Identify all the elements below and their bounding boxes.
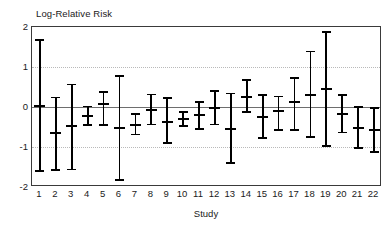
point-estimate-marker bbox=[98, 103, 109, 105]
point-estimate-marker bbox=[353, 127, 364, 129]
x-tick-label-2: 2 bbox=[52, 188, 57, 199]
upper-ci-cap bbox=[322, 31, 331, 33]
upper-ci-cap bbox=[370, 107, 379, 109]
lower-ci-cap bbox=[99, 124, 108, 126]
lower-ci-cap bbox=[35, 170, 44, 172]
x-tick-label-20: 20 bbox=[336, 188, 347, 199]
forest-plot-figure: Log-Relative Risk 210-1-2 12345678910111… bbox=[0, 0, 392, 235]
upper-ci-cap bbox=[35, 39, 44, 41]
y-tick-label-1: 1 bbox=[4, 61, 28, 72]
lower-ci-cap bbox=[322, 145, 331, 147]
plot-inner bbox=[32, 27, 380, 185]
gridline-1 bbox=[32, 67, 380, 68]
lower-ci-cap bbox=[131, 134, 140, 136]
upper-ci-cap bbox=[51, 97, 60, 99]
x-tick-label-11: 11 bbox=[193, 188, 203, 199]
confidence-interval-line bbox=[71, 85, 73, 170]
y-tick-label--2: -2 bbox=[4, 181, 28, 192]
point-estimate-marker bbox=[305, 94, 316, 96]
point-estimate-marker bbox=[50, 132, 61, 134]
lower-ci-cap bbox=[370, 151, 379, 153]
confidence-interval-line bbox=[278, 97, 280, 131]
upper-ci-cap bbox=[131, 113, 140, 115]
x-tick-label-12: 12 bbox=[209, 188, 220, 199]
x-tick-label-6: 6 bbox=[116, 188, 121, 199]
lower-ci-cap bbox=[67, 169, 76, 171]
x-tick-label-17: 17 bbox=[288, 188, 299, 199]
upper-ci-cap bbox=[258, 94, 267, 96]
upper-ci-cap bbox=[99, 91, 108, 93]
lower-ci-cap bbox=[115, 179, 124, 181]
lower-ci-cap bbox=[179, 125, 188, 127]
x-tick-label-13: 13 bbox=[225, 188, 236, 199]
x-tick-label-21: 21 bbox=[352, 188, 363, 199]
upper-ci-cap bbox=[195, 101, 204, 103]
point-estimate-marker bbox=[82, 115, 93, 117]
x-tick-label-15: 15 bbox=[256, 188, 267, 199]
upper-ci-cap bbox=[147, 94, 156, 96]
x-tick-label-18: 18 bbox=[304, 188, 315, 199]
point-estimate-marker bbox=[178, 118, 189, 120]
x-tick-label-7: 7 bbox=[132, 188, 137, 199]
lower-ci-cap bbox=[226, 162, 235, 164]
y-axis-title: Log-Relative Risk bbox=[36, 8, 112, 19]
lower-ci-cap bbox=[258, 137, 267, 139]
upper-ci-cap bbox=[83, 106, 92, 108]
x-tick-label-14: 14 bbox=[240, 188, 251, 199]
upper-ci-cap bbox=[67, 84, 76, 86]
upper-ci-cap bbox=[115, 75, 124, 77]
y-tick-label-0: 0 bbox=[4, 101, 28, 112]
point-estimate-marker bbox=[130, 124, 141, 126]
lower-ci-cap bbox=[338, 132, 347, 134]
x-tick-label-16: 16 bbox=[272, 188, 283, 199]
point-estimate-marker bbox=[241, 96, 252, 98]
x-tick-label-8: 8 bbox=[148, 188, 153, 199]
lower-ci-cap bbox=[242, 111, 251, 113]
point-estimate-marker bbox=[273, 110, 284, 112]
upper-ci-cap bbox=[338, 94, 347, 96]
point-estimate-marker bbox=[34, 105, 45, 107]
x-tick-label-4: 4 bbox=[84, 188, 89, 199]
point-estimate-marker bbox=[337, 113, 348, 115]
point-estimate-marker bbox=[114, 127, 125, 129]
y-tick-label-2: 2 bbox=[4, 21, 28, 32]
x-tick-label-19: 19 bbox=[320, 188, 331, 199]
lower-ci-cap bbox=[210, 124, 219, 126]
lower-ci-cap bbox=[83, 124, 92, 126]
plot-area bbox=[31, 26, 381, 186]
point-estimate-marker bbox=[146, 109, 157, 111]
point-estimate-marker bbox=[257, 116, 268, 118]
lower-ci-cap bbox=[147, 124, 156, 126]
gridline--1 bbox=[32, 147, 380, 148]
lower-ci-cap bbox=[51, 169, 60, 171]
upper-ci-cap bbox=[306, 51, 315, 53]
x-tick-label-9: 9 bbox=[164, 188, 169, 199]
lower-ci-cap bbox=[163, 142, 172, 144]
point-estimate-marker bbox=[194, 114, 205, 116]
x-tick-label-22: 22 bbox=[368, 188, 379, 199]
upper-ci-cap bbox=[242, 79, 251, 81]
point-estimate-marker bbox=[369, 129, 380, 131]
upper-ci-cap bbox=[274, 96, 283, 98]
y-tick-label--1: -1 bbox=[4, 141, 28, 152]
lower-ci-cap bbox=[195, 128, 204, 130]
lower-ci-cap bbox=[290, 129, 299, 131]
point-estimate-marker bbox=[162, 121, 173, 123]
x-tick-label-10: 10 bbox=[177, 188, 188, 199]
upper-ci-cap bbox=[210, 90, 219, 92]
x-axis-title: Study bbox=[31, 208, 381, 219]
y-axis-tick-labels: 210-1-2 bbox=[0, 26, 28, 186]
point-estimate-marker bbox=[209, 107, 220, 109]
lower-ci-cap bbox=[306, 136, 315, 138]
upper-ci-cap bbox=[354, 106, 363, 108]
confidence-interval-line bbox=[294, 78, 296, 130]
confidence-interval-line bbox=[103, 92, 105, 125]
x-tick-label-3: 3 bbox=[68, 188, 73, 199]
upper-ci-cap bbox=[290, 77, 299, 79]
upper-ci-cap bbox=[226, 93, 235, 95]
x-tick-label-5: 5 bbox=[100, 188, 105, 199]
lower-ci-cap bbox=[354, 147, 363, 149]
lower-ci-cap bbox=[274, 129, 283, 131]
upper-ci-cap bbox=[163, 97, 172, 99]
upper-ci-cap bbox=[179, 111, 188, 113]
